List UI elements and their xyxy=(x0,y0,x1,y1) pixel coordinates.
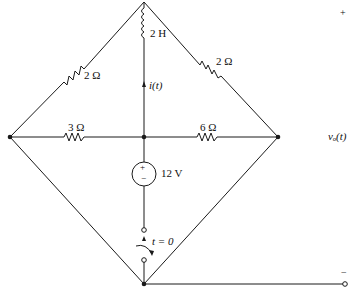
switch-label: t = 0 xyxy=(152,236,173,247)
resistor-6ohm-label: 6 Ω xyxy=(200,122,216,133)
resistor-top-right-label: 2 Ω xyxy=(216,56,232,67)
voltage-source-label: 12 V xyxy=(161,168,183,179)
inductor-2h xyxy=(142,2,145,137)
node-center xyxy=(142,135,147,140)
resistor-6ohm xyxy=(197,133,217,141)
output-terminal-minus xyxy=(343,282,348,287)
node-right xyxy=(276,135,281,140)
source-minus-sign: − xyxy=(141,174,146,183)
resistor-3ohm-label: 3 Ω xyxy=(68,122,84,133)
resistor-3ohm xyxy=(64,133,84,141)
node-left xyxy=(8,135,13,140)
current-arrow-icon xyxy=(142,81,146,87)
switch-arrow xyxy=(136,245,152,254)
resistor-top-left-label: 2 Ω xyxy=(84,70,100,81)
current-label: i(t) xyxy=(149,80,162,91)
inductor-label: 2 H xyxy=(150,28,166,39)
output-minus-sign: − xyxy=(341,268,347,278)
switch-up-arrow-icon xyxy=(142,236,146,241)
source-plus-sign: + xyxy=(140,163,145,172)
switch-terminal-bottom xyxy=(142,258,147,263)
switch-terminal-top xyxy=(142,228,147,233)
node-bottom xyxy=(142,282,147,287)
wire-top-right xyxy=(144,2,278,137)
switch-arrowhead-icon xyxy=(149,250,154,256)
circuit-diagram xyxy=(0,0,355,299)
output-voltage-label: vₒ(t) xyxy=(328,131,346,142)
output-plus-sign: + xyxy=(340,8,346,18)
wire-top-left xyxy=(10,2,144,137)
resistor-top-left xyxy=(64,66,84,85)
